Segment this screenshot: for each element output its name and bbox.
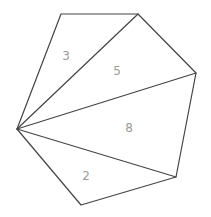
region-label-5: 5 — [113, 64, 121, 78]
region-label-8: 8 — [125, 121, 133, 135]
region-labels: 3 5 8 2 — [62, 49, 133, 183]
diagonal-hub-to-right — [17, 73, 196, 129]
diagonal-hub-to-lower-right — [17, 129, 176, 177]
outer-hexagon — [17, 14, 196, 205]
triangulated-polygon-diagram: 3 5 8 2 — [0, 0, 211, 217]
polygon-outline — [17, 14, 196, 205]
region-label-2: 2 — [82, 169, 90, 183]
diagonals — [17, 14, 196, 177]
region-label-3: 3 — [62, 49, 70, 63]
